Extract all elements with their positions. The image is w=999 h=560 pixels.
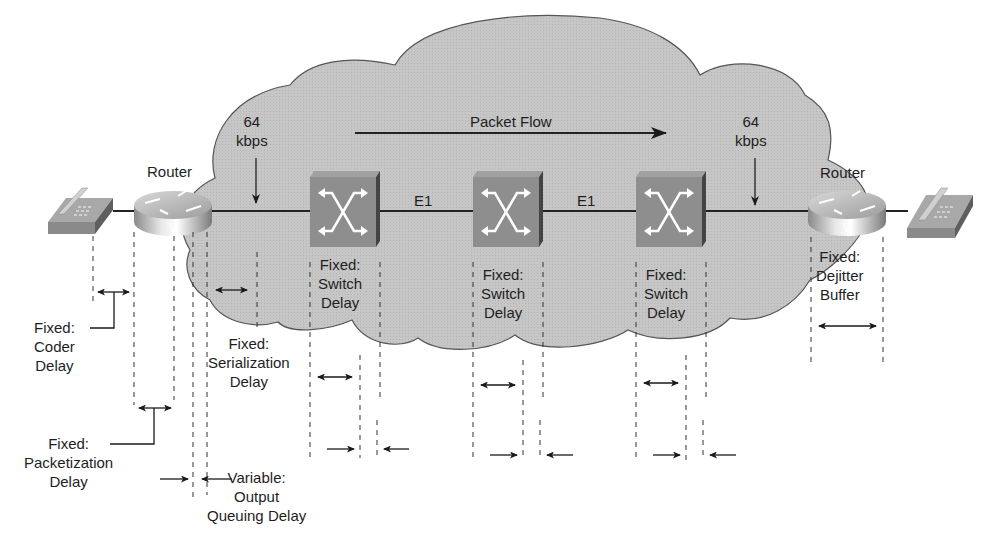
right-router-icon: V (808, 191, 886, 236)
switch-3-delay-label: Fixed: Switch Delay (644, 265, 688, 322)
switch-1-delay-label: Fixed: Switch Delay (318, 255, 362, 312)
switch-2-icon (473, 171, 543, 247)
switch-1-icon (310, 171, 380, 247)
serialization-delay-label: Fixed: Serialization Delay (208, 334, 290, 391)
left-router-label: Router (147, 162, 192, 181)
left-speed-label: 64 kbps (236, 112, 268, 150)
right-speed-label: 64 kbps (735, 112, 767, 150)
right-router-label: Router (820, 163, 865, 182)
packet-flow-label: Packet Flow (470, 112, 552, 131)
packetization-delay-label: Fixed: Packetization Delay (24, 434, 113, 491)
right-phone-icon (907, 188, 973, 238)
left-router-icon: V (134, 191, 212, 236)
left-phone-icon (48, 188, 113, 234)
coder-leader (90, 292, 114, 328)
packetization-leader (110, 408, 154, 444)
trunk-2-label: E1 (577, 191, 595, 210)
svg-text:V: V (169, 220, 178, 235)
switch-3-icon (636, 171, 706, 247)
dejitter-label: Fixed: Dejitter Buffer (816, 247, 864, 304)
trunk-1-label: E1 (414, 191, 432, 210)
svg-text:V: V (843, 220, 852, 235)
coder-delay-label: Fixed: Coder Delay (34, 318, 75, 375)
voice-delay-diagram: V V (0, 0, 999, 560)
switch-2-delay-label: Fixed: Switch Delay (481, 265, 525, 322)
queuing-delay-label: Variable: Output Queuing Delay (207, 468, 306, 525)
